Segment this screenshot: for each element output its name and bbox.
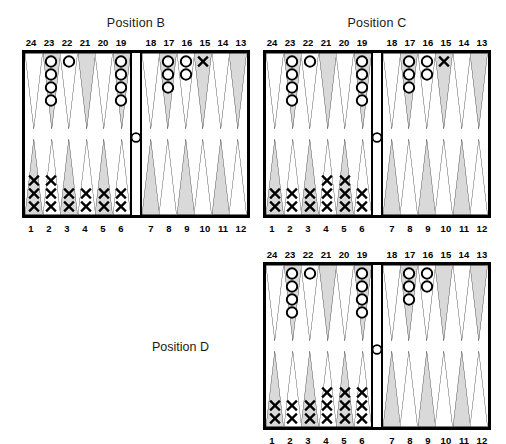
checker-o[interactable] [403,68,416,81]
point-18[interactable] [142,53,160,129]
point-11[interactable] [212,139,230,215]
checker-x[interactable] [338,412,351,425]
checker-x[interactable] [197,55,210,68]
point-17[interactable] [159,53,177,129]
checker-x[interactable] [303,200,316,213]
checker-x[interactable] [268,187,281,200]
point-9[interactable] [418,351,436,427]
point-10[interactable] [435,351,453,427]
point-19[interactable] [354,53,372,129]
point-17[interactable] [400,265,418,341]
point-7[interactable] [383,351,401,427]
point-22[interactable] [60,53,78,129]
point-24[interactable] [25,53,43,129]
checker-o[interactable] [179,55,192,68]
checker-stack-19[interactable] [354,53,372,129]
checker-o[interactable] [286,55,299,68]
checker-o[interactable] [356,68,369,81]
checker-x[interactable] [321,412,334,425]
checker-x[interactable] [356,399,369,412]
checker-x[interactable] [97,187,110,200]
checker-x[interactable] [286,187,299,200]
checker-o[interactable] [286,280,299,293]
checker-o[interactable] [356,267,369,280]
checker-stack-4[interactable] [78,139,96,215]
checker-o[interactable] [179,68,192,81]
point-13[interactable] [229,53,247,129]
checker-x[interactable] [338,399,351,412]
checker-o[interactable] [45,68,58,81]
point-23[interactable] [284,265,302,341]
point-24[interactable] [266,53,284,129]
point-14[interactable] [453,265,471,341]
bar[interactable] [130,53,142,215]
checker-stack-16[interactable] [418,265,436,341]
checker-x[interactable] [321,399,334,412]
checker-stack-23[interactable] [284,265,302,341]
point-19[interactable] [113,53,131,129]
checker-stack-17[interactable] [159,53,177,129]
checker-stack-3[interactable] [301,139,319,215]
checker-o[interactable] [420,280,433,293]
checker-o[interactable] [356,306,369,319]
point-2[interactable] [284,351,302,427]
point-6[interactable] [354,351,372,427]
checker-stack-5[interactable] [336,139,354,215]
point-4[interactable] [319,139,337,215]
bar[interactable] [371,53,383,215]
point-14[interactable] [212,53,230,129]
checker-stack-22[interactable] [301,265,319,341]
checker-stack-19[interactable] [113,53,131,129]
checker-stack-6[interactable] [354,139,372,215]
checker-o[interactable] [162,81,175,94]
point-21[interactable] [319,53,337,129]
checker-o[interactable] [45,81,58,94]
checker-x[interactable] [80,187,93,200]
checker-o[interactable] [420,68,433,81]
checker-o[interactable] [403,81,416,94]
point-23[interactable] [43,53,61,129]
checker-o[interactable] [115,68,128,81]
checker-x[interactable] [45,174,58,187]
checker-stack-22[interactable] [301,53,319,129]
checker-stack-2[interactable] [284,351,302,427]
point-20[interactable] [336,265,354,341]
checker-x[interactable] [115,200,128,213]
checker-x[interactable] [286,399,299,412]
checker-stack-22[interactable] [60,53,78,129]
point-21[interactable] [78,53,96,129]
checker-x[interactable] [356,386,369,399]
checker-x[interactable] [27,174,40,187]
checker-x[interactable] [286,412,299,425]
checker-o[interactable] [420,55,433,68]
checker-x[interactable] [303,187,316,200]
checker-stack-15[interactable] [194,53,212,129]
point-13[interactable] [470,265,488,341]
point-2[interactable] [43,139,61,215]
checker-stack-17[interactable] [400,265,418,341]
checker-o[interactable] [420,267,433,280]
checker-x[interactable] [321,200,334,213]
checker-stack-5[interactable] [336,351,354,427]
checker-stack-4[interactable] [319,351,337,427]
point-12[interactable] [470,139,488,215]
checker-o[interactable] [356,280,369,293]
checker-stack-2[interactable] [284,139,302,215]
checker-stack-1[interactable] [25,139,43,215]
checker-stack-3[interactable] [301,351,319,427]
checker-stack-4[interactable] [319,139,337,215]
checker-x[interactable] [45,200,58,213]
checker-x[interactable] [338,187,351,200]
checker-stack-15[interactable] [435,53,453,129]
checker-x[interactable] [97,200,110,213]
checker-x[interactable] [338,174,351,187]
point-18[interactable] [383,53,401,129]
point-19[interactable] [354,265,372,341]
checker-x[interactable] [62,187,75,200]
checker-o[interactable] [162,55,175,68]
checker-o[interactable] [45,94,58,107]
checker-stack-17[interactable] [400,53,418,129]
checker-o[interactable] [162,68,175,81]
point-10[interactable] [435,139,453,215]
checker-x[interactable] [356,187,369,200]
